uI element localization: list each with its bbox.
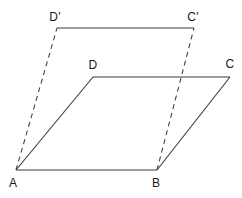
vertex-label-D: D bbox=[89, 59, 98, 71]
geometry-figure: A B C D C' D' bbox=[0, 0, 242, 198]
geometry-canvas bbox=[0, 0, 242, 198]
segment-BC bbox=[157, 77, 230, 170]
vertex-label-B: B bbox=[152, 177, 160, 189]
segment-DA bbox=[16, 77, 93, 170]
vertex-label-C-prime: C' bbox=[187, 11, 198, 23]
segment-A-Dprime bbox=[16, 28, 57, 170]
vertex-label-D-prime: D' bbox=[49, 11, 60, 23]
segment-B-Cprime bbox=[157, 28, 194, 170]
vertex-label-C: C bbox=[226, 58, 235, 70]
vertex-label-A: A bbox=[9, 177, 17, 189]
